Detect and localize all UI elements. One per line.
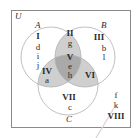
region-vii-label: VII [62, 92, 76, 102]
region-iv-element-a: a [45, 75, 49, 85]
universe-label: U [15, 11, 22, 21]
region-v-element-h: h [68, 70, 73, 80]
set-label-b: B [101, 20, 107, 30]
region-ii-label: II [66, 28, 74, 38]
region-iii-label: III [94, 32, 105, 42]
region-viii-label: VIII [107, 111, 125, 121]
region-viii-element-k: k [114, 100, 119, 110]
region-i-label: I [36, 31, 40, 41]
venn-diagram: U A B C I d i j II g III b l IV a V e h … [0, 0, 136, 138]
set-label-c: C [66, 114, 73, 124]
set-label-a: A [34, 20, 41, 30]
region-vii-element-c: c [68, 102, 72, 112]
region-ii-element-g: g [68, 38, 73, 48]
region-viii-element-f: f [115, 90, 118, 100]
region-i-element-j: j [36, 60, 40, 70]
region-vi-label: VI [85, 70, 95, 80]
